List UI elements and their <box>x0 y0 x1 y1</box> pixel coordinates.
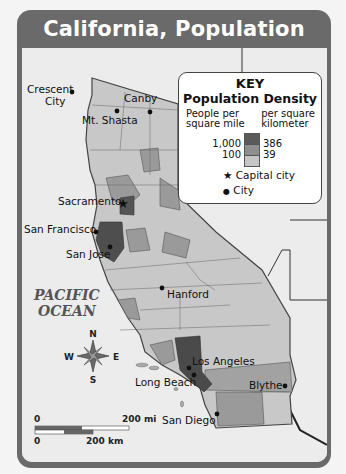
dot-icon: ● <box>223 187 230 196</box>
svg-text:Mt. Shasta: Mt. Shasta <box>82 114 138 126</box>
density-scale: 1,000 100 386 39 <box>179 133 321 167</box>
svg-text:E: E <box>113 352 119 362</box>
svg-text:Canby: Canby <box>124 92 157 104</box>
svg-text:San Diego: San Diego <box>162 414 216 426</box>
map-title: California, Population <box>17 10 331 48</box>
svg-text:0: 0 <box>34 436 40 446</box>
star-icon: ★ <box>223 169 232 181</box>
svg-text:Hanford: Hanford <box>167 288 209 300</box>
svg-text:City: City <box>45 95 66 107</box>
svg-text:W: W <box>64 352 74 362</box>
svg-text:Long Beach: Long Beach <box>135 376 196 388</box>
key-subheading: Population Density <box>179 91 321 106</box>
svg-text:S: S <box>90 375 96 385</box>
svg-text:Blythe: Blythe <box>249 379 283 391</box>
legend-city: ● City <box>179 184 321 198</box>
svg-text:Sacramento: Sacramento <box>58 195 122 207</box>
key-heading: KEY <box>179 77 321 91</box>
svg-text:0: 0 <box>34 414 40 424</box>
svg-text:200 mi: 200 mi <box>122 414 156 424</box>
svg-text:San Jose: San Jose <box>66 248 111 260</box>
svg-text:Crescent: Crescent <box>27 83 73 95</box>
key-col-right: per square kilometer <box>261 109 315 129</box>
svg-text:San Francisco: San Francisco <box>24 223 96 235</box>
svg-text:N: N <box>89 329 97 339</box>
legend-capital: ★ Capital city <box>179 169 321 182</box>
map-key: KEY Population Density People per square… <box>178 72 322 204</box>
svg-text:200 km: 200 km <box>86 436 123 446</box>
ocean-label: PACIFIC OCEAN <box>34 287 100 319</box>
key-col-left: People per square mile <box>186 109 245 129</box>
swatch-low <box>244 155 260 167</box>
svg-text:Los Angeles: Los Angeles <box>192 355 255 367</box>
